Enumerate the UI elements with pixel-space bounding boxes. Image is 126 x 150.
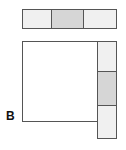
side-bar-cell-top <box>97 41 117 72</box>
top-bar-cell-left <box>22 9 52 29</box>
panel-label: B <box>6 110 15 122</box>
side-bar-cell-bottom <box>97 105 117 139</box>
top-bar-cell-right <box>83 9 117 29</box>
side-bar-cell-middle <box>97 71 117 106</box>
large-square <box>22 41 98 122</box>
top-bar-cell-middle <box>51 9 84 29</box>
